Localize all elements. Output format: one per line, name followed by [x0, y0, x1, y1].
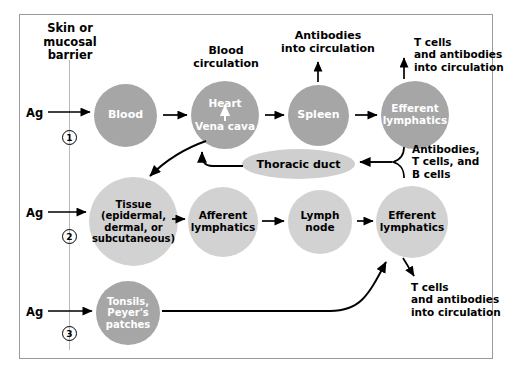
node-tissue[interactable]: Tissue (epidermal, dermal, or subcutaneo… [89, 177, 178, 266]
brace-output-label: Antibodies, T cells, and B cells [412, 143, 504, 180]
node-efferent-lymphatics-bottom-line-2: lymphatics [380, 222, 445, 234]
node-tissue-line-4: subcutaneous) [92, 233, 175, 244]
node-efferent-lymphatics-top[interactable]: Efferent lymphatics [381, 81, 449, 149]
node-lymph-node-line-2: node [305, 222, 334, 234]
node-spleen-label: Spleen [297, 109, 339, 121]
node-thoracic-duct-label: Thoracic duct [257, 158, 341, 171]
efferent-bottom-output-label: T cells and antibodies into circulation [411, 281, 509, 318]
efferent-top-output-line-2: and antibodies [414, 48, 510, 60]
brace-output-line-2: T cells, and [412, 155, 504, 167]
barrier-label-line-2: mucosal [29, 36, 111, 50]
node-afferent-lymphatics-line-2: lymphatics [191, 222, 256, 234]
node-blood[interactable]: Blood [94, 84, 157, 147]
ag-label-3: Ag [26, 305, 43, 319]
blood-circulation-caption-line-2: circulation [183, 58, 269, 71]
efferent-bottom-output-line-1: T cells [411, 281, 509, 293]
blood-circulation-caption: Blood circulation [183, 45, 269, 71]
node-tissue-line-1: Tissue [115, 199, 151, 210]
node-heart-label: Heart [208, 98, 241, 110]
ag-label-2: Ag [26, 206, 43, 220]
node-spleen[interactable]: Spleen [288, 85, 349, 146]
barrier-label-line-3: barrier [29, 49, 111, 63]
node-tissue-line-3: dermal, or [104, 222, 163, 233]
barrier-label: Skin or mucosal barrier [29, 22, 111, 63]
figure-canvas: Skin or mucosal barrier Ag 1 Ag 2 Ag 3 B… [0, 0, 513, 380]
efferent-top-output-label: T cells and antibodies into circulation [414, 36, 510, 73]
node-vena-cava-label: Vena cava [195, 121, 255, 133]
node-tissue-line-2: (epidermal, [101, 210, 166, 221]
node-blood-label: Blood [108, 109, 143, 121]
entry-number-1: 1 [62, 130, 77, 145]
barrier-label-line-1: Skin or [29, 22, 111, 36]
barrier-divider-line [69, 60, 70, 350]
node-thoracic-duct[interactable]: Thoracic duct [242, 149, 355, 179]
node-tonsils-line-2: Peyer's [107, 307, 148, 318]
node-tonsils-line-3: patches [106, 319, 150, 330]
brace-output-line-3: B cells [412, 168, 504, 180]
efferent-bottom-output-line-2: and antibodies [411, 293, 509, 305]
ag-label-1: Ag [26, 106, 43, 120]
node-heart-vena-cava[interactable]: Heart Vena cava [191, 81, 259, 149]
node-efferent-lymphatics-top-line-2: lymphatics [383, 115, 448, 127]
spleen-output-line-2: into circulation [273, 43, 383, 56]
spleen-output-label: Antibodies into circulation [273, 30, 383, 56]
efferent-top-output-line-1: T cells [414, 36, 510, 48]
entry-number-3: 3 [62, 326, 77, 341]
brace-output-line-1: Antibodies, [412, 143, 504, 155]
efferent-top-output-line-3: into circulation [414, 61, 510, 73]
node-lymph-node[interactable]: Lymph node [288, 190, 352, 254]
node-tonsils-peyers-patches[interactable]: Tonsils, Peyer's patches [96, 281, 160, 345]
node-afferent-lymphatics[interactable]: Afferent lymphatics [188, 187, 258, 257]
node-tonsils-line-1: Tonsils, [107, 296, 149, 307]
node-efferent-lymphatics-bottom[interactable]: Efferent lymphatics [376, 186, 448, 258]
efferent-bottom-output-line-3: into circulation [411, 306, 509, 318]
entry-number-2: 2 [62, 229, 77, 244]
